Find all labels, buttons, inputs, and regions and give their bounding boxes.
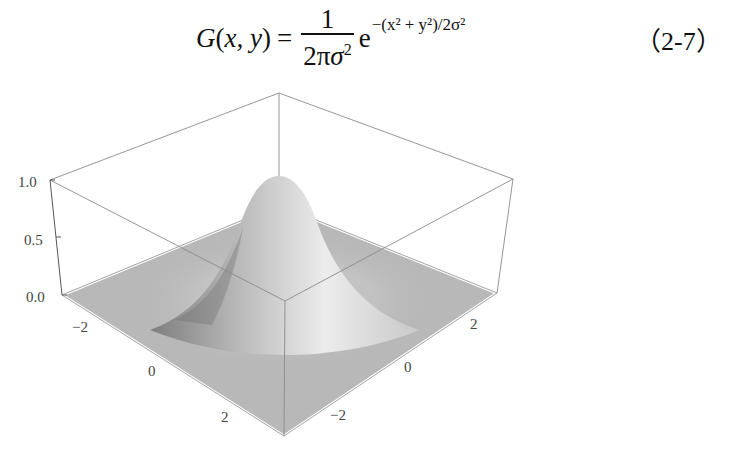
y-tick-0: 0 xyxy=(404,359,412,375)
x-tick-2: 2 xyxy=(221,409,229,425)
x-tick-0: 0 xyxy=(148,363,156,379)
z-tick-0: 0.0 xyxy=(26,289,45,305)
y-tick-2: 2 xyxy=(470,316,478,332)
gaussian-3d-plot: 1.0 0.5 0.0 −2 0 2 2 0 −2 xyxy=(0,0,746,451)
z-axis xyxy=(50,180,67,295)
x-tick-neg2: −2 xyxy=(72,319,88,335)
z-tick-1: 1.0 xyxy=(18,174,37,190)
z-tick-05: 0.5 xyxy=(24,232,43,248)
y-tick-neg2: −2 xyxy=(330,407,346,423)
